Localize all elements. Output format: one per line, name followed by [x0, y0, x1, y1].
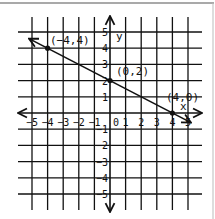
y-tick-label: −5 — [96, 189, 108, 200]
y-axis-label: y — [116, 30, 123, 43]
point-label-a: (−4,4) — [50, 34, 90, 47]
y-tick-label: 4 — [102, 43, 108, 54]
y-tick-label: −1 — [96, 124, 108, 135]
y-tick-label: 1 — [102, 92, 108, 103]
x-tick-label: −3 — [57, 117, 69, 128]
point-label-b: (0,2) — [116, 65, 149, 78]
data-point — [107, 78, 112, 83]
x-tick-label: −4 — [42, 117, 54, 128]
point-label-c: (4,0) — [166, 91, 199, 104]
x-tick-label: 1 — [123, 117, 129, 128]
x-tick-label: −5 — [26, 117, 38, 128]
x-tick-label: 0 — [113, 117, 119, 128]
x-tick-label: 3 — [154, 117, 160, 128]
y-tick-label: −4 — [96, 173, 108, 184]
y-tick-label: −3 — [96, 157, 108, 168]
x-tick-label: 4 — [169, 117, 175, 128]
y-tick-label: −2 — [96, 140, 108, 151]
x-tick-label: 2 — [138, 117, 144, 128]
coordinate-graph: −5−4−3−2−101234554321−1−2−3−4−5 y x (−4,… — [0, 0, 215, 219]
graph-svg: −5−4−3−2−101234554321−1−2−3−4−5 y x (−4,… — [0, 0, 215, 219]
x-tick-label: −2 — [73, 117, 85, 128]
y-tick-label: 5 — [102, 27, 108, 38]
data-point — [170, 110, 175, 115]
y-tick-label: 3 — [102, 59, 108, 70]
